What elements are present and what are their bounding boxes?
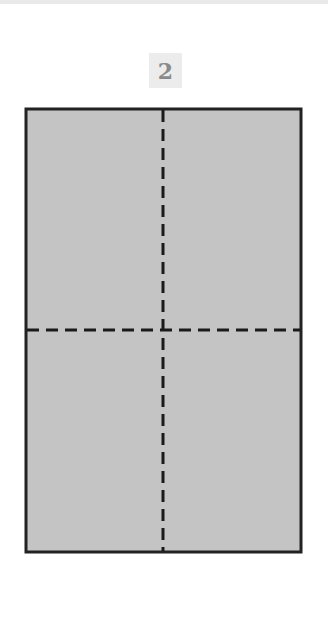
folding-diagram: [0, 0, 328, 622]
